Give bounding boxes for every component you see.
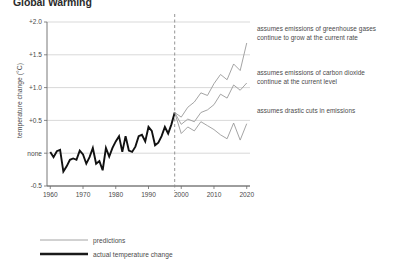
series-line-drastic-cuts-prediction — [175, 113, 247, 141]
global-warming-chart-figure: Global Warming temperature change (°C) +… — [0, 0, 395, 271]
x-tick-label: 1970 — [76, 191, 91, 198]
series-line-actual-temperature-change — [50, 113, 174, 172]
x-tick-label: 2010 — [207, 191, 222, 198]
x-tick-label: 2000 — [174, 191, 189, 198]
y-tick-label: +1.5 — [29, 51, 42, 58]
annotation-drastic-cuts: assumes drastic cuts in emissions — [257, 106, 389, 115]
x-tick-label: 2020 — [239, 191, 254, 198]
x-tick-label: 1960 — [43, 191, 58, 198]
series-line-high-emissions-prediction — [175, 43, 247, 117]
x-tick-label: 1990 — [141, 191, 156, 198]
annotation-constant-emissions: assumes emissions of carbon dioxide cont… — [257, 68, 389, 86]
legend-label-actual: actual temperature change — [93, 251, 173, 258]
y-tick-label: -0.5 — [31, 182, 43, 189]
annotation-high-emissions: assumes emissions of greenhouse gases co… — [257, 24, 389, 42]
legend-label-predictions: predictions — [93, 237, 125, 244]
y-tick-label: +1.0 — [29, 84, 42, 91]
y-tick-label: +0.5 — [29, 117, 42, 124]
y-tick-label: +2.0 — [29, 18, 42, 25]
x-tick-label: 1980 — [108, 191, 123, 198]
y-tick-label: none — [27, 150, 42, 157]
